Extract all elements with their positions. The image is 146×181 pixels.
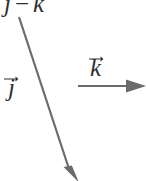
diagonal-down-right-arrow-icon <box>19 17 79 181</box>
arrow-overlay <box>0 0 146 181</box>
horizontal-right-arrow-icon <box>78 80 146 93</box>
expression-j-minus-k: j−k <box>4 0 45 16</box>
vector-label-j: j <box>8 68 15 100</box>
vector-accent-arrow-icon <box>4 68 19 75</box>
vector-accent-arrow-icon <box>88 48 103 55</box>
expression-right-term: k <box>33 0 45 17</box>
vector-diagram: j−k j k <box>0 0 146 181</box>
expression-minus-operator: − <box>12 0 33 17</box>
expression-left-term: j <box>4 0 12 17</box>
vector-label-k: k <box>90 48 101 80</box>
